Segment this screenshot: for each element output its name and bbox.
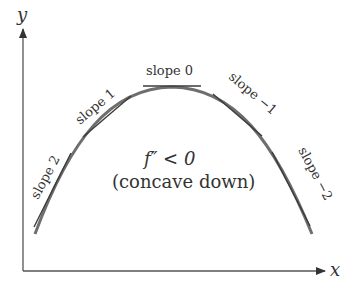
label-slope-2: slope 2 <box>27 153 62 202</box>
label-slope-1: slope 1 <box>72 86 118 128</box>
x-axis-label: x <box>330 259 340 280</box>
concave-down-label: (concave down) <box>112 171 255 192</box>
concavity-diagram: y x slope 2 slope 1 slope 0 slope −1 slo… <box>0 0 356 291</box>
y-axis-label: y <box>16 4 28 25</box>
label-slope-0: slope 0 <box>146 63 193 78</box>
label-slope-neg2: slope −2 <box>295 144 335 202</box>
second-derivative-label: f″ < 0 <box>142 148 195 169</box>
